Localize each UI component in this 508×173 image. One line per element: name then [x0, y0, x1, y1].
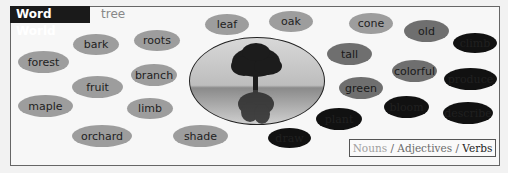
word-bubble-forest[interactable]: forest	[18, 51, 69, 73]
legend-nouns: Nouns	[353, 142, 387, 154]
word-bubble-roots[interactable]: roots	[134, 30, 180, 51]
word-bubble-bark[interactable]: bark	[73, 34, 119, 55]
word-bubble-climb[interactable]: climb	[453, 33, 497, 53]
topic-label: tree	[101, 6, 125, 23]
word-bubble-draw[interactable]: draw	[268, 128, 311, 148]
word-bubble-orchard[interactable]: orchard	[72, 125, 132, 147]
word-bubble-describe[interactable]: describe	[443, 102, 493, 124]
word-bubble-produce[interactable]: produce	[444, 68, 497, 90]
word-bubble-fruit[interactable]: fruit	[72, 76, 123, 98]
tree-icon	[190, 38, 325, 125]
word-bubble-old[interactable]: old	[404, 20, 449, 42]
word-bubble-green[interactable]: green	[339, 77, 383, 99]
word-bubble-plant[interactable]: plant	[316, 108, 362, 130]
word-bubble-bloom[interactable]: bloom	[384, 96, 429, 118]
legend-separator: /	[455, 142, 459, 154]
tree-reflection-image	[189, 37, 325, 125]
word-bubble-limb[interactable]: limb	[127, 98, 173, 119]
word-bubble-maple[interactable]: maple	[18, 95, 73, 117]
legend-separator: /	[390, 142, 394, 154]
legend: Nouns / Adjectives / Verbs	[349, 139, 496, 157]
word-bubble-branch[interactable]: branch	[131, 64, 177, 86]
legend-verbs: Verbs	[462, 142, 492, 154]
word-bubble-tall[interactable]: tall	[327, 43, 372, 65]
word-bubble-cone[interactable]: cone	[349, 13, 393, 34]
word-bubble-oak[interactable]: oak	[269, 11, 313, 32]
app-title: Word World	[10, 6, 90, 23]
word-bubble-leaf[interactable]: leaf	[205, 14, 249, 35]
word-bubble-colorful[interactable]: colorful	[392, 60, 437, 82]
word-bubble-shade[interactable]: shade	[173, 125, 228, 147]
legend-adjectives: Adjectives	[397, 142, 452, 154]
